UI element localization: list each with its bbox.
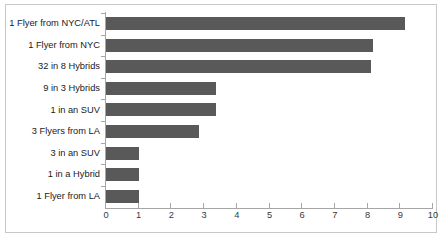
value-tick <box>367 203 368 208</box>
value-tick-label: 5 <box>267 211 272 220</box>
bar-row: 1 in an SUV <box>6 99 436 121</box>
value-tick-label: 8 <box>365 211 370 220</box>
bar <box>106 17 405 30</box>
category-tick <box>101 143 105 144</box>
bar <box>106 82 216 95</box>
bar <box>106 125 199 138</box>
category-tick <box>101 186 105 187</box>
bar <box>106 103 216 116</box>
value-tick <box>301 203 302 208</box>
bar-category-label: 1 in a Hybrid <box>6 170 100 179</box>
bar <box>106 147 139 160</box>
bar-category-label: 1 in an SUV <box>6 106 100 115</box>
category-tick <box>101 164 105 165</box>
bar-row: 1 in a Hybrid <box>6 164 436 186</box>
value-tick-label: 6 <box>300 211 305 220</box>
value-tick <box>334 203 335 208</box>
bar-category-label: 32 in 8 Hybrids <box>6 62 100 71</box>
bar <box>106 39 373 52</box>
category-tick <box>101 121 105 122</box>
value-tick <box>269 203 270 208</box>
value-tick <box>203 203 204 208</box>
bar-category-label: 9 in 3 Hybrids <box>6 84 100 93</box>
value-tick-label: 1 <box>136 211 141 220</box>
category-tick <box>101 35 105 36</box>
bar-category-label: 3 Flyers from LA <box>6 127 100 136</box>
bar-category-label: 1 Flyer from LA <box>6 192 100 201</box>
bar-category-label: 3 in an SUV <box>6 149 100 158</box>
value-axis-ticks: 012345678910 <box>6 203 436 233</box>
bar-row: 1 Flyer from NYC <box>6 35 436 57</box>
bar <box>106 60 371 73</box>
bar-row: 1 Flyer from NYC/ATL <box>6 13 436 35</box>
chart-screenshot: 1 Flyer from NYC/ATL1 Flyer from NYC32 i… <box>0 0 443 249</box>
bar-rows: 1 Flyer from NYC/ATL1 Flyer from NYC32 i… <box>6 13 436 207</box>
value-tick-label: 10 <box>428 211 438 220</box>
value-tick <box>105 203 106 208</box>
value-tick <box>138 203 139 208</box>
bar-row: 3 Flyers from LA <box>6 121 436 143</box>
value-tick-label: 3 <box>202 211 207 220</box>
bar-category-label: 1 Flyer from NYC <box>6 41 100 50</box>
chart-frame: 1 Flyer from NYC/ATL1 Flyer from NYC32 i… <box>5 4 437 233</box>
plot-area: 1 Flyer from NYC/ATL1 Flyer from NYC32 i… <box>6 5 436 232</box>
category-tick <box>101 13 105 14</box>
value-tick <box>432 203 433 208</box>
bar <box>106 190 139 203</box>
category-tick <box>101 99 105 100</box>
bar-category-label: 1 Flyer from NYC/ATL <box>6 19 100 28</box>
value-tick-label: 4 <box>234 211 239 220</box>
value-tick <box>170 203 171 208</box>
category-tick <box>101 56 105 57</box>
category-tick <box>101 78 105 79</box>
bar-row: 9 in 3 Hybrids <box>6 78 436 100</box>
bar <box>106 168 139 181</box>
value-tick-label: 0 <box>103 211 108 220</box>
bar-row: 3 in an SUV <box>6 143 436 165</box>
value-tick <box>236 203 237 208</box>
value-tick-label: 9 <box>398 211 403 220</box>
value-tick-label: 2 <box>169 211 174 220</box>
value-tick-label: 7 <box>332 211 337 220</box>
bar-row: 32 in 8 Hybrids <box>6 56 436 78</box>
value-tick <box>399 203 400 208</box>
